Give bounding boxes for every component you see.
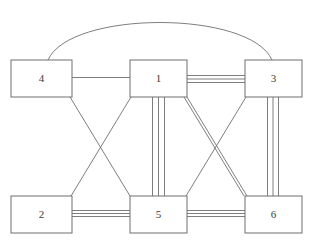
- node-6[interactable]: 6: [245, 196, 302, 233]
- edge-3-5-diagonal: [186, 97, 246, 196]
- edge-1-3-triple: [187, 76, 245, 83]
- node-3-label: 3: [271, 72, 277, 84]
- node-5[interactable]: 5: [130, 196, 187, 233]
- edge-3-6-triple: [268, 97, 279, 196]
- graph-figure: 4 1 3 2 5 6: [0, 0, 316, 252]
- node-4-label: 4: [39, 72, 45, 84]
- edge-2-5-triple: [72, 211, 130, 217]
- node-5-label: 5: [156, 208, 162, 220]
- node-1[interactable]: 1: [130, 60, 187, 97]
- node-6-label: 6: [271, 208, 277, 220]
- edge-1-5-triple: [153, 97, 165, 196]
- edge-layer: [48, 23, 279, 217]
- node-2[interactable]: 2: [11, 196, 72, 233]
- node-3[interactable]: 3: [245, 60, 302, 97]
- edge-4-5-diagonal: [70, 97, 130, 196]
- node-1-label: 1: [156, 72, 162, 84]
- edge-1-2-diagonal: [71, 97, 131, 196]
- node-4[interactable]: 4: [11, 60, 72, 97]
- edge-5-6-triple: [187, 211, 245, 217]
- graph-canvas: 4 1 3 2 5 6: [0, 0, 316, 252]
- edge-4-3-arc: [48, 23, 272, 61]
- node-layer: 4 1 3 2 5 6: [11, 60, 302, 233]
- node-2-label: 2: [39, 208, 45, 220]
